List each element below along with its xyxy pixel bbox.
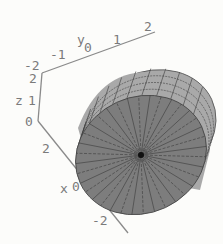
surface <box>56 49 223 236</box>
x-axis-label: x <box>60 181 68 196</box>
y-axis-label: y <box>77 32 85 47</box>
plot-3d: -2 -1 0 1 2 y 2 1 0 z 2 0 -2 x <box>0 0 223 244</box>
z-axis-label: z <box>15 93 23 108</box>
z-tick: 2 <box>29 71 37 86</box>
z-tick: 1 <box>28 93 36 108</box>
z-tick: 0 <box>25 114 33 129</box>
y-tick: 2 <box>144 19 152 34</box>
y-tick: -1 <box>50 47 66 62</box>
x-tick: 2 <box>42 141 50 156</box>
y-tick: 1 <box>113 32 121 47</box>
z-axis-line <box>38 73 42 121</box>
y-tick: 0 <box>84 40 92 55</box>
x-tick: 0 <box>72 179 80 194</box>
x-tick: -2 <box>92 213 108 228</box>
face-center <box>138 152 144 158</box>
